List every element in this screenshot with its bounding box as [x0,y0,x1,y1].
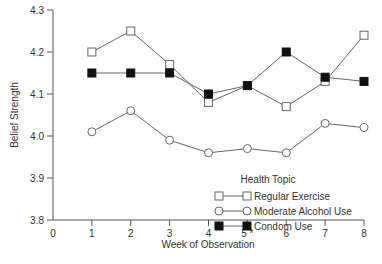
y-tick-label: 4.2 [30,47,44,58]
legend: Health TopicRegular ExerciseModerate Alc… [215,174,352,232]
filled-square-marker [282,48,290,56]
open-circle-marker [243,145,251,153]
series-line [92,111,364,153]
open-circle-marker [166,136,174,144]
legend-item: Condom Use [215,221,313,232]
x-tick-label: 8 [361,228,367,239]
x-axis-label: Week of Observation [161,239,254,250]
legend-title: Health Topic [241,174,296,185]
open-circle-marker [127,107,135,115]
legend-open-square-icon [243,192,251,200]
series-group [88,27,368,157]
y-tick-label: 3.8 [30,215,44,226]
open-circle-marker [360,124,368,132]
x-tick-label: 3 [167,228,173,239]
legend-open-circle-icon [243,207,251,215]
legend-item: Moderate Alcohol Use [215,206,352,217]
filled-square-marker [360,77,368,85]
y-tick-label: 4.1 [30,89,44,100]
x-tick-label: 1 [89,228,95,239]
y-tick-label: 4.3 [30,5,44,16]
x-tick-label: 0 [50,228,56,239]
series-condom-use [88,48,368,98]
y-tick-label: 3.9 [30,173,44,184]
filled-square-marker [205,90,213,98]
open-square-marker [166,61,174,69]
open-circle-marker [88,128,96,136]
legend-label: Regular Exercise [254,191,331,202]
open-square-marker [282,103,290,111]
open-square-marker [88,48,96,56]
x-tick-label: 7 [322,228,328,239]
open-square-marker [205,98,213,106]
series-moderate-alcohol-use [88,107,368,157]
legend-label: Moderate Alcohol Use [254,206,352,217]
x-tick-label: 4 [206,228,212,239]
filled-square-marker [321,73,329,81]
open-circle-marker [282,149,290,157]
legend-open-square-icon [215,192,223,200]
legend-open-circle-icon [215,207,223,215]
legend-item: Regular Exercise [215,191,331,202]
line-chart: 3.83.94.04.14.24.3012345 *678 Health Top… [0,0,382,264]
open-circle-marker [205,149,213,157]
y-axis-label: Belief Strength [9,82,20,148]
y-tick-label: 4.0 [30,131,44,142]
legend-label: Condom Use [254,221,313,232]
legend-filled-square-icon [215,222,223,230]
filled-square-marker [243,82,251,90]
legend-filled-square-icon [243,222,251,230]
open-square-marker [127,27,135,35]
open-circle-marker [321,119,329,127]
axes: 3.83.94.04.14.24.3012345 *678 [30,5,367,240]
filled-square-marker [127,69,135,77]
filled-square-marker [88,69,96,77]
open-square-marker [360,31,368,39]
x-tick-label: 2 [128,228,134,239]
filled-square-marker [166,69,174,77]
